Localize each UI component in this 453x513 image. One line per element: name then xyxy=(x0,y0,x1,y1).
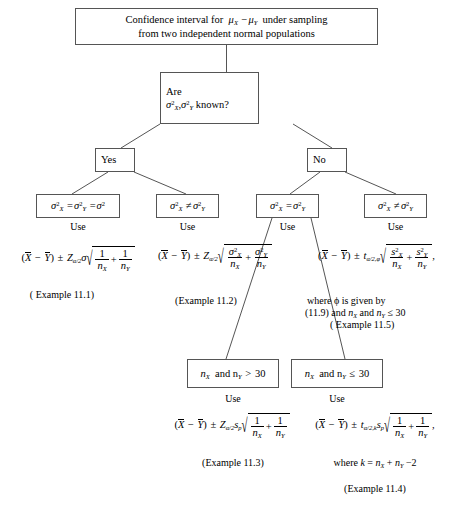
use-label-large-sample: Use xyxy=(187,392,279,405)
title-box: Confidence interval for μX −μY under sam… xyxy=(75,8,378,45)
variance-box-known-unequal: σ2X ≠σ2Y xyxy=(156,194,219,218)
example-label-11-3: (Example 11.3) xyxy=(187,456,279,469)
use-label-unknown-unequal: Use xyxy=(364,220,427,233)
decision-box: Are σ2X,σ2Y known? xyxy=(160,72,259,124)
no-box: No xyxy=(307,148,347,172)
variance-box-known-equal: σ2X =σ2Y =σ2 xyxy=(36,194,120,218)
formula-large-sample: (X − Y) ± Zα/2sp√1nX+1nY xyxy=(152,413,312,438)
example-label-11-4: (Example 11.4) xyxy=(297,482,453,495)
sample-size-box-small: nX and nY ≤ 30 xyxy=(291,359,383,388)
sample-size-small-text: nX and nY ≤ 30 xyxy=(305,367,370,380)
formula-unknown-unequal: (X − Y) ± tα/2,φ√s2XnX+s2YnY, xyxy=(300,244,453,269)
decision-label: Are xyxy=(166,86,182,97)
decision-question: σ2X,σ2Y known? xyxy=(166,99,229,110)
title-line-1: Confidence interval for μX −μY under sam… xyxy=(125,14,327,25)
variance-unknown-unequal-text: σ2X ≠σ2Y xyxy=(378,199,413,212)
sample-size-box-large: nX and nY > 30 xyxy=(187,359,279,388)
formula-known-equal: (X − Y) ± Zα/2σ√1nX+1nY xyxy=(2,246,154,271)
k-definition-note: where k = nX + nY −2 xyxy=(297,456,453,469)
variance-known-equal-text: σ2X =σ2Y =σ2 xyxy=(51,199,105,212)
example-label-11-2: (Example 11.2) xyxy=(146,294,266,307)
use-label-known-unequal: Use xyxy=(156,220,219,233)
formula-known-unequal: (X − Y) ± Zα/2√σ2XnX+σ2YnY xyxy=(140,244,290,269)
example-label-11-5: ( Example 11.5) xyxy=(330,318,450,331)
use-label-unknown-equal: Use xyxy=(256,220,319,233)
variance-unknown-equal-text: σ2X =σ2Y xyxy=(270,199,305,212)
title-line-2: from two independent normal populations xyxy=(138,28,315,39)
use-label-small-sample: Use xyxy=(291,392,383,405)
yes-label: Yes xyxy=(101,153,116,166)
no-label: No xyxy=(313,153,326,166)
variance-box-unknown-equal: σ2X =σ2Y xyxy=(256,194,319,218)
variance-known-unequal-text: σ2X ≠σ2Y xyxy=(170,199,205,212)
flowchart-canvas: Confidence interval for μX −μY under sam… xyxy=(0,0,453,513)
use-label-known-equal: Use xyxy=(36,220,120,233)
yes-box: Yes xyxy=(95,148,135,172)
example-label-11-1: ( Example 11.1) xyxy=(2,288,122,301)
formula-small-sample: (X − Y) ± tα/2,ksp√1nX+1nY, xyxy=(297,413,453,438)
sample-size-large-text: nX and nY > 30 xyxy=(201,367,266,380)
variance-box-unknown-unequal: σ2X ≠σ2Y xyxy=(364,194,427,218)
